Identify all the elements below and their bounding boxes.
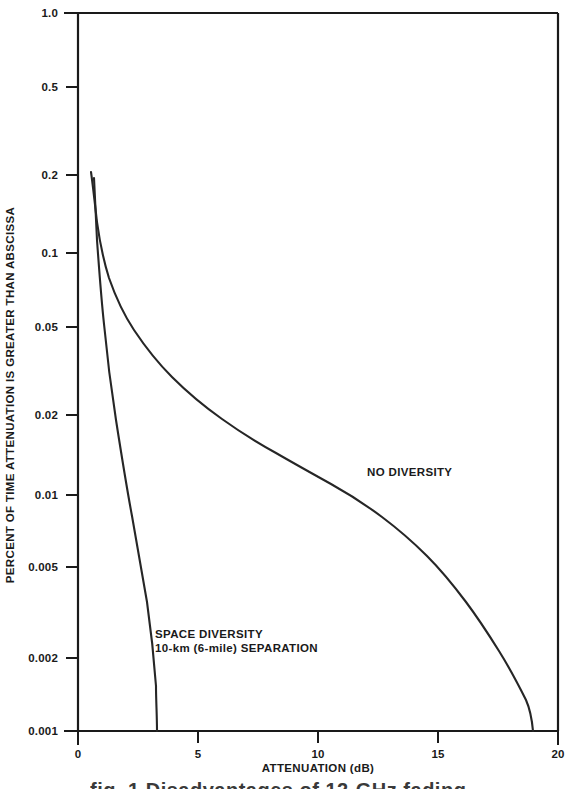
x-tick-label: 0	[75, 748, 82, 760]
figure-caption: fig. 1 Disadvantages of 12-GHz fading	[90, 779, 466, 789]
y-tick-label: 1.0	[0, 7, 58, 19]
y-tick-label: 0.5	[0, 81, 58, 93]
x-tick-label: 15	[431, 748, 444, 760]
y-tick-label: 0.2	[0, 169, 58, 181]
series-label-space-diversity: SPACE DIVERSITY 10-km (6-mile) SEPARATIO…	[155, 627, 318, 655]
chart-plot-area	[0, 0, 573, 789]
x-tick-label: 20	[551, 748, 564, 760]
y-tick-label: 0.002	[0, 652, 58, 664]
series-label-space-diversity-line2: 10-km (6-mile) SEPARATION	[155, 641, 318, 655]
series-label-no-diversity: NO DIVERSITY	[367, 465, 452, 479]
y-axis-ticks	[64, 13, 78, 731]
x-axis-label: ATTENUATION (dB)	[262, 762, 375, 774]
series-label-space-diversity-line1: SPACE DIVERSITY	[155, 627, 318, 641]
figure-container: 1.0 0.5 0.2 0.1 0.05 0.02 0.01 0.005 0.0…	[0, 0, 573, 789]
x-tick-label: 5	[195, 748, 202, 760]
y-axis-label: PERCENT OF TIME ATTENUATION IS GREATER T…	[4, 206, 16, 582]
x-tick-label: 10	[311, 748, 324, 760]
y-tick-label: 0.001	[0, 725, 58, 737]
x-axis-ticks	[78, 731, 558, 745]
